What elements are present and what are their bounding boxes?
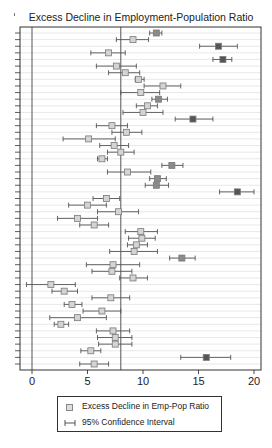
- estimate-marker: [69, 301, 75, 307]
- estimate-marker: [109, 123, 115, 129]
- estimate-marker: [86, 136, 92, 142]
- x-tick-label: 10: [137, 375, 149, 387]
- x-tick-label: 15: [192, 375, 204, 387]
- legend-label-ci: 95% Confidence Interval: [82, 417, 175, 427]
- square-marker-icon: [66, 404, 73, 411]
- y-axis-ticks: [15, 33, 20, 364]
- estimate-marker: [139, 235, 145, 241]
- estimate-marker: [91, 361, 97, 367]
- estimate-marker: [220, 56, 226, 62]
- estimate-marker: [123, 129, 129, 135]
- legend: Excess Decline in Emp-Pop Ratio 95% Conf…: [57, 396, 222, 432]
- estimate-marker: [122, 70, 128, 76]
- estimate-marker: [106, 50, 112, 56]
- estimate-marker: [153, 30, 159, 36]
- estimate-marker: [215, 43, 221, 49]
- estimate-marker: [88, 348, 94, 354]
- estimate-marker: [138, 229, 144, 235]
- estimate-marker: [179, 255, 185, 261]
- estimate-marker: [130, 37, 136, 43]
- estimate-marker: [203, 354, 209, 360]
- estimate-marker: [169, 162, 175, 168]
- x-tick-label: 20: [248, 375, 260, 387]
- legend-item-estimate: Excess Decline in Emp-Pop Ratio: [58, 400, 221, 414]
- estimate-marker: [113, 63, 119, 69]
- estimate-marker: [234, 189, 240, 195]
- x-tick-label: 5: [84, 375, 90, 387]
- chart-title: Excess Decline in Employment-Population …: [0, 11, 272, 23]
- estimate-marker: [112, 341, 118, 347]
- estimate-marker: [144, 103, 150, 109]
- estimate-marker: [140, 109, 146, 115]
- estimate-marker: [48, 282, 54, 288]
- estimate-marker: [110, 262, 116, 268]
- estimate-marker: [124, 169, 130, 175]
- estimate-marker: [160, 83, 166, 89]
- estimate-marker: [138, 90, 144, 96]
- estimate-marker: [116, 209, 122, 215]
- estimate-marker: [91, 222, 97, 228]
- estimate-marker: [112, 335, 118, 341]
- estimate-marker: [111, 143, 117, 149]
- estimate-marker: [136, 76, 142, 82]
- capped-line-icon: [64, 419, 76, 427]
- estimate-marker: [109, 268, 115, 274]
- legend-item-ci: 95% Confidence Interval: [58, 416, 221, 430]
- estimate-marker: [58, 321, 64, 327]
- estimate-marker: [75, 215, 81, 221]
- estimate-marker: [99, 308, 105, 314]
- estimate-marker: [110, 328, 116, 334]
- estimate-marker: [154, 176, 160, 182]
- estimate-marker: [131, 248, 137, 254]
- estimate-marker: [133, 242, 139, 248]
- estimate-marker: [108, 295, 114, 301]
- estimate-marker: [190, 116, 196, 122]
- estimate-marker: [153, 182, 159, 188]
- estimate-marker: [156, 96, 162, 102]
- estimate-marker: [130, 275, 136, 281]
- forest-plot: 05101520: [0, 0, 272, 448]
- x-tick-label: 0: [29, 375, 35, 387]
- estimate-marker: [75, 315, 81, 321]
- estimate-marker: [85, 202, 91, 208]
- estimate-marker: [99, 156, 105, 162]
- estimate-marker: [61, 288, 67, 294]
- legend-label-estimate: Excess Decline in Emp-Pop Ratio: [82, 401, 209, 411]
- estimate-marker: [103, 196, 109, 202]
- estimate-marker: [118, 149, 124, 155]
- x-axis: 05101520: [29, 370, 260, 387]
